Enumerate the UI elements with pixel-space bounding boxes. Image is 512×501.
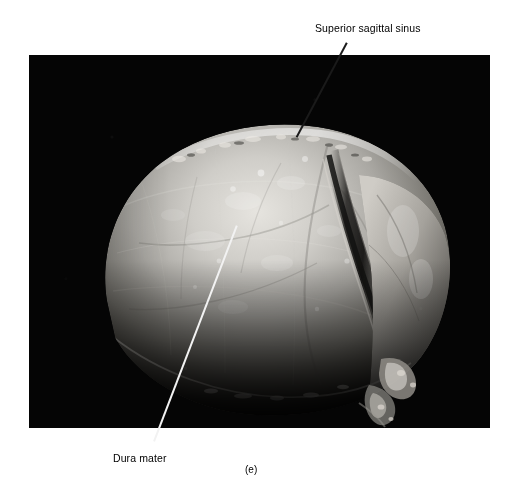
dura-dome [29,55,490,428]
label-dura-mater: Dura mater [113,452,167,464]
label-superior-sagittal-sinus: Superior sagittal sinus [315,22,421,34]
figure-caption: (e) [245,464,257,475]
specimen-image [29,55,490,428]
anatomy-figure: Superior sagittal sinus Dura mater (e) [0,0,512,501]
dura-covered-brain-illustration [29,55,490,428]
specimen-photograph [29,55,490,428]
